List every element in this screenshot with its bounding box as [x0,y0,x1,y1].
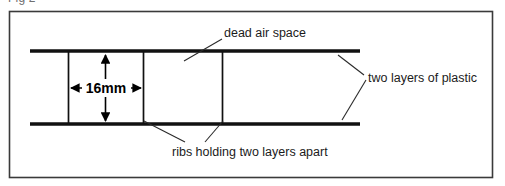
figure-screenshot: Fig 2 16mm dead air space two [0,0,505,186]
label-dead-air-space: dead air space [224,26,306,40]
twinwall-plastic-sheet-diagram: 16mm dead air space two layers of plasti… [0,0,505,186]
label-two-layers-of-plastic: two layers of plastic [368,71,477,85]
dimension-label: 16mm [86,80,126,96]
label-ribs-holding-two-layers-apart: ribs holding two layers apart [172,145,328,159]
